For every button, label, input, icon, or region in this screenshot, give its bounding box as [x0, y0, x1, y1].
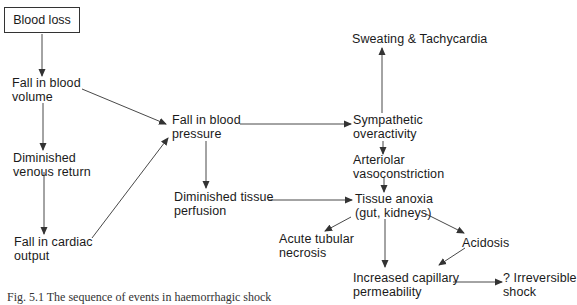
node-text-line: Diminished tissue [174, 190, 274, 204]
node-text-line: Acute tubular [279, 232, 354, 246]
node-fall-cardiac-output: Fall in cardiac output [14, 235, 93, 263]
node-text-line: vasoconstriction [353, 167, 444, 181]
figure-caption: Fig. 5.1 The sequence of events in haemo… [7, 290, 271, 305]
node-text-line: venous return [13, 165, 91, 179]
node-text-line: shock [503, 285, 577, 299]
node-irreversible-shock: ? Irreversible shock [503, 271, 577, 299]
node-diminished-tissue-perfusion: Diminished tissue perfusion [174, 190, 274, 218]
node-text-line: Tissue anoxia [355, 192, 433, 206]
arrow-anoxia-to-necrosis [325, 217, 351, 231]
node-sympathetic-overactivity: Sympathetic overactivity [353, 113, 423, 141]
node-text-line: (gut, kidneys) [355, 206, 433, 220]
node-tissue-anoxia: Tissue anoxia (gut, kidneys) [355, 192, 433, 220]
node-text-line: ? Irreversible [503, 271, 577, 285]
arrow-acidosis-to-permeability [439, 248, 465, 265]
node-text-line: Sympathetic [353, 113, 423, 127]
node-text-line: overactivity [353, 127, 423, 141]
arrow-volume-to-pressure [82, 89, 166, 124]
node-text-line: Arteriolar [353, 153, 444, 167]
node-text-line: Sweating & Tachycardia [352, 32, 487, 46]
node-text-line: Fall in blood [172, 113, 241, 127]
node-increased-capillary-permeability: Increased capillary permeability [353, 271, 459, 299]
node-blood-loss-label: Blood loss [13, 13, 71, 27]
node-text-line: Increased capillary [353, 271, 459, 285]
node-text-line: pressure [172, 127, 241, 141]
node-text-line: Fall in blood [12, 76, 81, 90]
node-text-line: perfusion [174, 204, 274, 218]
node-acidosis: Acidosis [462, 236, 509, 250]
node-text-line: necrosis [279, 246, 354, 260]
node-text-line: output [14, 249, 93, 263]
node-diminished-venous-return: Diminished venous return [13, 151, 91, 179]
node-text-line: volume [12, 90, 81, 104]
node-text-line: Acidosis [462, 236, 509, 250]
node-text-line: Fall in cardiac [14, 235, 93, 249]
node-arteriolar-vasoconstriction: Arteriolar vasoconstriction [353, 153, 444, 181]
node-acute-tubular-necrosis: Acute tubular necrosis [279, 232, 354, 260]
node-sweating-tachycardia: Sweating & Tachycardia [352, 32, 487, 46]
node-fall-blood-volume: Fall in blood volume [12, 76, 81, 104]
node-fall-blood-pressure: Fall in blood pressure [172, 113, 241, 141]
node-text-line: Diminished [13, 151, 91, 165]
node-blood-loss: Blood loss [4, 7, 80, 33]
node-text-line: permeability [353, 285, 459, 299]
arrow-cardiac-to-pressure [92, 138, 168, 238]
